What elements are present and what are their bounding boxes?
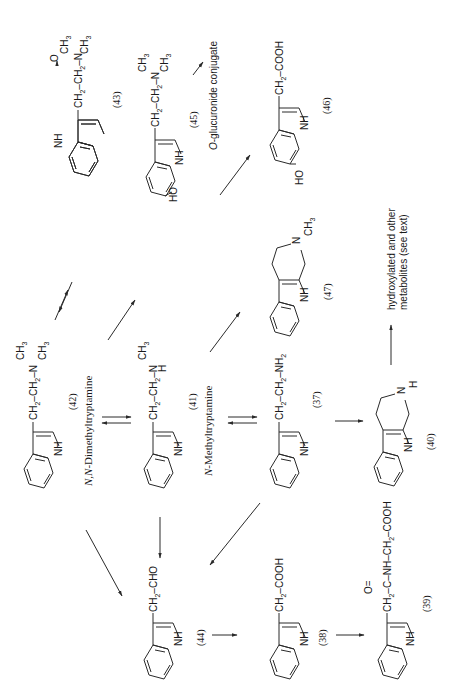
- compound-46: CH2–COOH NH HO (46): [270, 41, 333, 185]
- c43-chain: CH2–CH2–N: [73, 53, 86, 108]
- svg-text:hydroxylated and other: hydroxylated and other: [386, 208, 397, 310]
- compound-39: CH2–C–NH–CH2–COOH O= NH (39): [363, 501, 433, 679]
- compound-37: CH2–CH2–NH2 NH (37): [270, 354, 323, 488]
- c39-nh: NH: [405, 632, 416, 646]
- arrow-42-41-reversible: [102, 417, 131, 423]
- c45-chain: CH2–CH2–N: [150, 72, 163, 127]
- c47-methyl: CH3: [303, 218, 316, 236]
- compound-43: CH2–CH2–N NH O CH3 CH3 (43): [49, 36, 123, 176]
- c45-nh: NH: [174, 151, 185, 165]
- c41-number: (41): [187, 393, 199, 410]
- compound-47: N CH3 NH (47): [270, 218, 334, 336]
- arrow-42-to-45: [108, 300, 135, 340]
- arrow-42-to-44: [86, 530, 122, 596]
- arrow-42-43-reversible: [55, 282, 72, 320]
- c42-methyl-1: CH3: [15, 342, 28, 360]
- c44-nh: NH: [173, 632, 184, 646]
- c46-number: (46): [321, 97, 333, 114]
- arrow-45-to-glucuronide: [193, 62, 203, 75]
- c42-methyl-2: CH3: [37, 342, 50, 360]
- c45-methyl-1: CH3: [137, 54, 150, 72]
- c44-chain: CH2–CHO: [148, 566, 161, 612]
- c45-hydroxyl: HO: [168, 187, 179, 202]
- compound-44: CH2–CHO NH (44): [144, 566, 207, 679]
- c43-methyl-2: CH3: [79, 36, 92, 54]
- c39-number: (39): [421, 595, 433, 612]
- c38-nh: NH: [299, 632, 310, 646]
- svg-text:N,N-Dimethyltryptamine: N,N-Dimethyltryptamine: [82, 376, 94, 487]
- metabolic-pathway-diagram: CH2–CH2–N NH O CH3 CH3 (43) CH2–CH2–N CH…: [0, 0, 452, 687]
- nmt-name-label: N-Methyltryptamine: [202, 385, 214, 477]
- c46-chain: CH2–COOH: [274, 41, 287, 95]
- dmt-name-label: N,N-Dimethyltryptamine: [82, 376, 94, 487]
- c46-nh: NH: [299, 116, 310, 130]
- c43-number: (43): [111, 91, 123, 108]
- c45-number: (45): [188, 111, 200, 128]
- c40-nh: NH: [403, 438, 414, 452]
- c47-ring-n: N: [291, 237, 302, 244]
- c42-nh: NH: [53, 442, 64, 456]
- c42-chain: CH2–CH2–N: [28, 365, 41, 420]
- compound-42: CH2–CH2–N CH3 CH3 NH (42) N,N-Dimethyltr…: [15, 342, 94, 488]
- c47-nh: NH: [299, 288, 310, 302]
- compound-45: CH2–CH2–N CH3 CH3 NH HO (45): [137, 54, 200, 202]
- c41-nh-hydrogen: H: [157, 365, 168, 372]
- c40-ring-n: N: [396, 387, 407, 394]
- svg-text:N-Methyltryptamine: N-Methyltryptamine: [202, 385, 214, 477]
- c37-number: (37): [311, 391, 323, 408]
- c38-number: (38): [317, 629, 329, 646]
- c43-methyl-1: CH3: [59, 36, 72, 54]
- compound-41: CH2–CH2–N CH3 H NH (41) N-Methyltryptami…: [137, 342, 214, 488]
- c40-n-hydrogen: H: [408, 381, 419, 388]
- arrow-41-37-reversible: [228, 417, 257, 423]
- compound-40: N H NH (40): [374, 381, 437, 486]
- arrow-45-to-46: [220, 155, 250, 195]
- hydroxylated-metabolites-label: hydroxylated and other metabolites (see …: [386, 208, 409, 310]
- c37-chain: CH2–CH2–NH2: [274, 354, 287, 420]
- svg-text:O-glucuronide conjugate: O-glucuronide conjugate: [208, 41, 219, 150]
- c38-chain: CH2–COOH: [274, 558, 287, 612]
- c37-nh: NH: [299, 442, 310, 456]
- arrow-41-to-47: [210, 312, 240, 352]
- c44-number: (44): [195, 629, 207, 646]
- compound-38: CH2–COOH NH (38): [270, 558, 329, 679]
- c43-n-oxide-o: O: [49, 54, 60, 62]
- o-glucuronide-label: O-glucuronide conjugate: [208, 41, 219, 150]
- svg-text:metabolites (see text): metabolites (see text): [398, 214, 409, 310]
- c47-number: (47): [322, 283, 334, 300]
- c43-nh: NH: [53, 134, 64, 148]
- c46-hydroxyl: HO: [294, 170, 305, 185]
- c45-methyl-2: CH3: [159, 54, 172, 72]
- c41-chain: CH2–CH2–N: [148, 365, 161, 420]
- arrow-37-to-44: [210, 503, 260, 565]
- c39-carbonyl-o: O=: [363, 580, 374, 594]
- c40-number: (40): [425, 433, 437, 450]
- c42-number: (42): [67, 393, 79, 410]
- c41-nh: NH: [173, 442, 184, 456]
- c41-methyl: CH3: [137, 342, 150, 360]
- c39-chain: CH2–C–NH–CH2–COOH: [382, 501, 395, 612]
